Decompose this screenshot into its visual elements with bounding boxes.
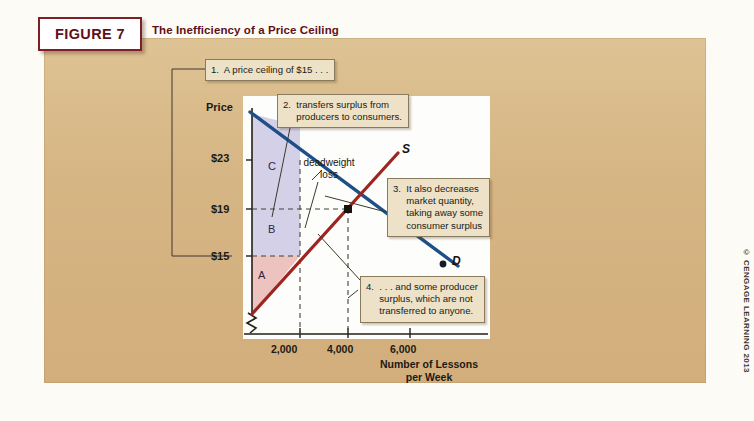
figure-number-label: FIGURE 7 [55, 26, 125, 42]
y-tick-label-19: $19 [211, 203, 229, 215]
deadweight-loss-line2: loss [298, 169, 360, 181]
callout-2: 2. transfers surplus from producers to c… [277, 94, 409, 128]
callout-4-leader [318, 234, 360, 280]
y-tick-label-15: $15 [211, 250, 229, 262]
callout-1: 1. A price ceiling of $15 . . . [205, 59, 335, 81]
region-label-b: B [268, 223, 275, 235]
region-label-c: C [268, 160, 276, 172]
y-tick-label-23: $23 [211, 152, 229, 164]
figure-title: The Inefficiency of a Price Ceiling [152, 24, 339, 36]
x-axis-title: Number of Lessons per Week [370, 358, 488, 383]
figure-root: FIGURE 7 The Inefficiency of a Price Cei… [0, 0, 754, 421]
demand-curve-label: D [452, 254, 461, 268]
copyright-notice: © CENGAGE LEARNING 2013 [742, 248, 751, 373]
deadweight-loss-line1: deadweight [298, 157, 360, 169]
axis-break-icon [247, 313, 256, 333]
supply-curve-label: S [402, 142, 410, 156]
y-axis-title: Price [206, 101, 233, 113]
x-axis-title-line1: Number of Lessons [370, 358, 488, 371]
figure-number-badge: FIGURE 7 [38, 17, 142, 51]
region-label-a: A [258, 269, 265, 281]
x-axis-title-line2: per Week [370, 371, 488, 384]
demand-endpoint-dot [440, 261, 447, 268]
region-b-shape [252, 209, 300, 256]
callout-3: 3. It also decreases market quantity, ta… [387, 178, 490, 237]
x-tick-label-2000: 2,000 [271, 343, 297, 355]
x-tick-label-6000: 6,000 [390, 343, 416, 355]
equilibrium-point-marker [344, 205, 352, 213]
deadweight-loss-annotation: deadweight loss [298, 157, 360, 181]
callout-4: 4. . . . and some producer surplus, whic… [360, 276, 485, 323]
callout-4-leader-left [348, 290, 358, 298]
deadweight-loss-leader-lower [305, 182, 318, 228]
x-tick-label-4000: 4,000 [327, 343, 353, 355]
